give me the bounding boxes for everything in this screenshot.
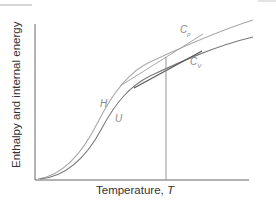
cp-label: Cp bbox=[180, 24, 191, 37]
cp-label-sub: p bbox=[187, 31, 190, 37]
y-axis-label: Enthalpy and internal energy bbox=[10, 28, 22, 168]
x-axis-label: Temperature, T bbox=[96, 184, 174, 196]
diagram-canvas bbox=[0, 0, 276, 208]
cv-label-sub: V bbox=[197, 63, 201, 69]
internal-energy-label: U bbox=[115, 113, 122, 124]
x-axis-label-text: Temperature, bbox=[96, 184, 164, 196]
enthalpy-curve bbox=[38, 20, 253, 179]
internal-energy-curve bbox=[40, 37, 253, 179]
enthalpy-label: H bbox=[100, 98, 107, 109]
x-axis-symbol: T bbox=[167, 184, 174, 196]
cv-label: CV bbox=[190, 56, 201, 69]
